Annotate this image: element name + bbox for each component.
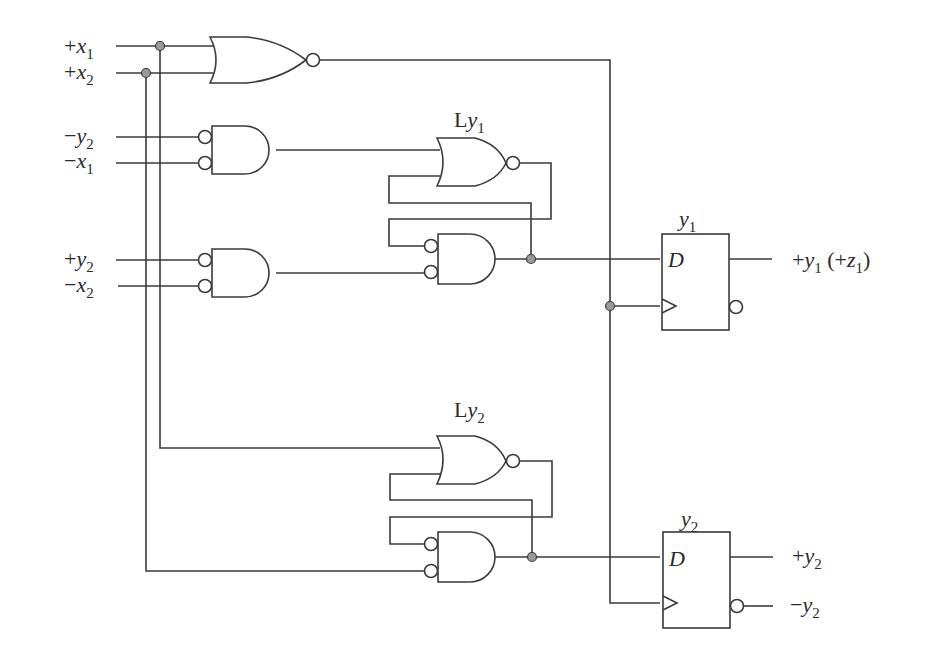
and-gate-1 — [199, 126, 441, 174]
latch-ly1-label: Ly1 — [454, 107, 485, 136]
output-label-y1-z1: +y1 (+z1) — [792, 247, 870, 276]
svg-text:+x1: +x1 — [64, 33, 94, 62]
flipflop-y1-title: y1 — [677, 206, 696, 235]
flipflop-y1-d-label: D — [667, 247, 684, 272]
svg-text:−x1: −x1 — [64, 148, 94, 177]
output-label-minus-y2: −y2 — [790, 592, 820, 621]
logic-circuit-diagram: +x1 +x2 −y2 −x1 +y2 −x2 — [0, 0, 930, 657]
input-label-plus-x1: +x1 — [64, 33, 94, 62]
svg-text:+y2: +y2 — [64, 246, 94, 275]
flipflop-y2-d-label: D — [668, 546, 685, 571]
input-label-plus-y2: +y2 — [64, 246, 94, 275]
svg-text:+x2: +x2 — [64, 59, 94, 88]
latch-ly1: Ly1 — [389, 107, 660, 284]
d-flipflop-y1: y1 D +y1 (+z1) — [662, 206, 870, 330]
latch-ly2: Ly2 — [390, 397, 660, 582]
nor-gate-inputs — [210, 37, 660, 603]
latch-ly2-label: Ly2 — [454, 397, 485, 426]
svg-text:−x2: −x2 — [64, 272, 94, 301]
clock-wires — [606, 302, 661, 311]
bus-wires — [146, 46, 440, 571]
d-flipflop-y2: y2 D +y2 −y2 — [663, 506, 822, 628]
input-label-minus-x2: −x2 — [64, 272, 94, 301]
and-gate-2 — [199, 249, 426, 297]
output-label-plus-y2: +y2 — [792, 543, 822, 572]
input-label-minus-x1: −x1 — [64, 148, 94, 177]
input-label-plus-x2: +x2 — [64, 59, 94, 88]
flipflop-y2-title: y2 — [679, 506, 698, 535]
input-junctions — [142, 42, 165, 78]
